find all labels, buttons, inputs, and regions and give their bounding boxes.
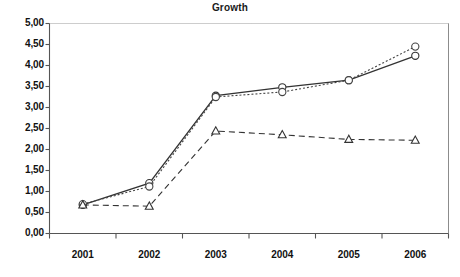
marker-triangle bbox=[411, 136, 419, 143]
marker-circle bbox=[146, 183, 153, 190]
marker-triangle bbox=[345, 135, 353, 142]
marker-circle bbox=[212, 93, 219, 100]
x-axis-tick-label: 2006 bbox=[385, 249, 445, 260]
data-series bbox=[79, 43, 419, 209]
x-axis-tick-label: 2004 bbox=[252, 249, 312, 260]
marker-circle bbox=[279, 88, 286, 95]
marker-circle bbox=[412, 52, 419, 59]
series-line-2 bbox=[83, 47, 416, 205]
y-axis-tick-label: 3,50 bbox=[0, 80, 44, 91]
y-axis-tick-label: 2,00 bbox=[0, 143, 44, 154]
marker-triangle bbox=[212, 127, 220, 134]
series-line-1 bbox=[83, 56, 416, 205]
x-axis-tick-label: 2001 bbox=[53, 249, 113, 260]
marker-circle bbox=[345, 77, 352, 84]
x-axis-tick-label: 2003 bbox=[186, 249, 246, 260]
axes bbox=[46, 24, 449, 239]
y-axis-tick-label: 0,00 bbox=[0, 227, 44, 238]
y-axis-tick-label: 3,00 bbox=[0, 101, 44, 112]
y-axis-tick-label: 1,50 bbox=[0, 164, 44, 175]
plot-area bbox=[0, 0, 460, 277]
y-axis-tick-label: 4,00 bbox=[0, 59, 44, 70]
growth-line-chart: Growth 0,000,501,001,502,002,503,003,504… bbox=[0, 0, 460, 277]
y-axis-tick-label: 4,50 bbox=[0, 38, 44, 49]
y-axis-tick-label: 2,50 bbox=[0, 122, 44, 133]
x-axis-tick-label: 2002 bbox=[119, 249, 179, 260]
y-axis-tick-label: 0,50 bbox=[0, 206, 44, 217]
x-axis-tick-label: 2005 bbox=[319, 249, 379, 260]
marker-circle bbox=[412, 43, 419, 50]
series-line-3 bbox=[83, 131, 416, 206]
y-axis-tick-label: 5,00 bbox=[0, 17, 44, 28]
y-axis-tick-label: 1,00 bbox=[0, 185, 44, 196]
